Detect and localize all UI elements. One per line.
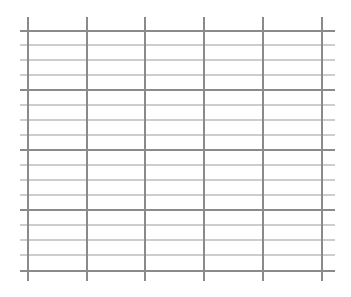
horizontal-grid-lines [20,31,335,271]
ruled-grid [0,0,351,297]
